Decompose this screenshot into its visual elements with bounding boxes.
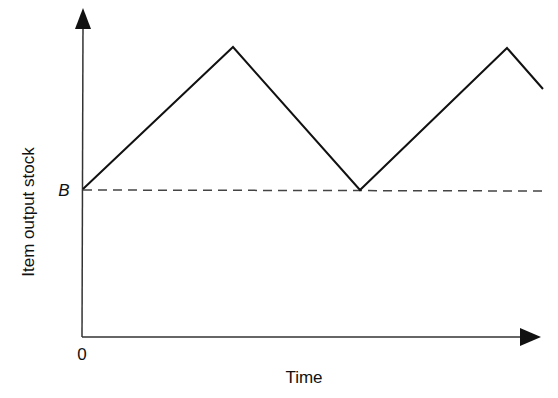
reference-label-b: B [58,181,69,200]
y-axis [82,26,83,337]
origin-label: 0 [77,345,86,364]
x-axis-label: Time [285,368,322,387]
y-axis-arrow-icon [75,8,91,29]
x-axis-arrow-icon [520,328,541,346]
stock-series-line [83,47,543,190]
y-axis-label: Item output stock [19,147,38,277]
stock-chart: B 0 Time Item output stock [0,0,558,398]
reference-line-b [83,190,545,191]
